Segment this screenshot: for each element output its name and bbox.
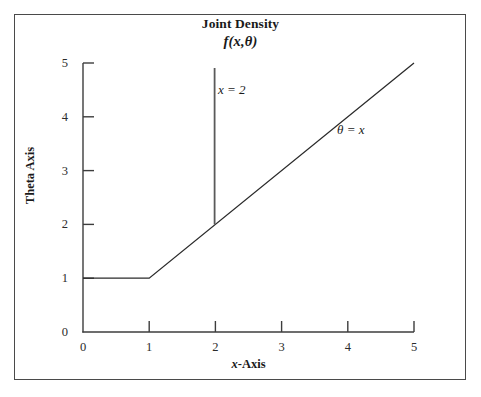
x-axis-ticks <box>149 321 414 332</box>
y-tick-label-1: 1 <box>42 271 68 286</box>
figure-root: Joint Density f(x,θ) 5 4 3 2 <box>0 0 481 397</box>
y-tick-label-5: 5 <box>42 56 68 71</box>
x-tick-label-1: 1 <box>136 340 162 355</box>
annotation-theta-equals-x: θ = x <box>337 122 364 138</box>
x-axis-title-suffix: -Axis <box>238 357 266 371</box>
x-tick-label-0: 0 <box>70 340 96 355</box>
x-axis-title: x-Axis <box>83 357 414 372</box>
plot-area <box>0 0 481 397</box>
y-tick-label-4: 4 <box>42 110 68 125</box>
y-axis-title: Theta Axis <box>23 116 38 236</box>
x-tick-label-3: 3 <box>269 340 295 355</box>
y-axis-ticks <box>83 63 94 278</box>
x-tick-label-2: 2 <box>202 340 228 355</box>
x-tick-label-5: 5 <box>401 340 427 355</box>
y-tick-label-3: 3 <box>42 164 68 179</box>
y-tick-label-0: 0 <box>42 325 68 340</box>
y-tick-label-2: 2 <box>42 217 68 232</box>
series-support-boundary <box>83 63 414 278</box>
x-tick-label-4: 4 <box>335 340 361 355</box>
annotation-x-equals-2: x = 2 <box>218 82 246 98</box>
